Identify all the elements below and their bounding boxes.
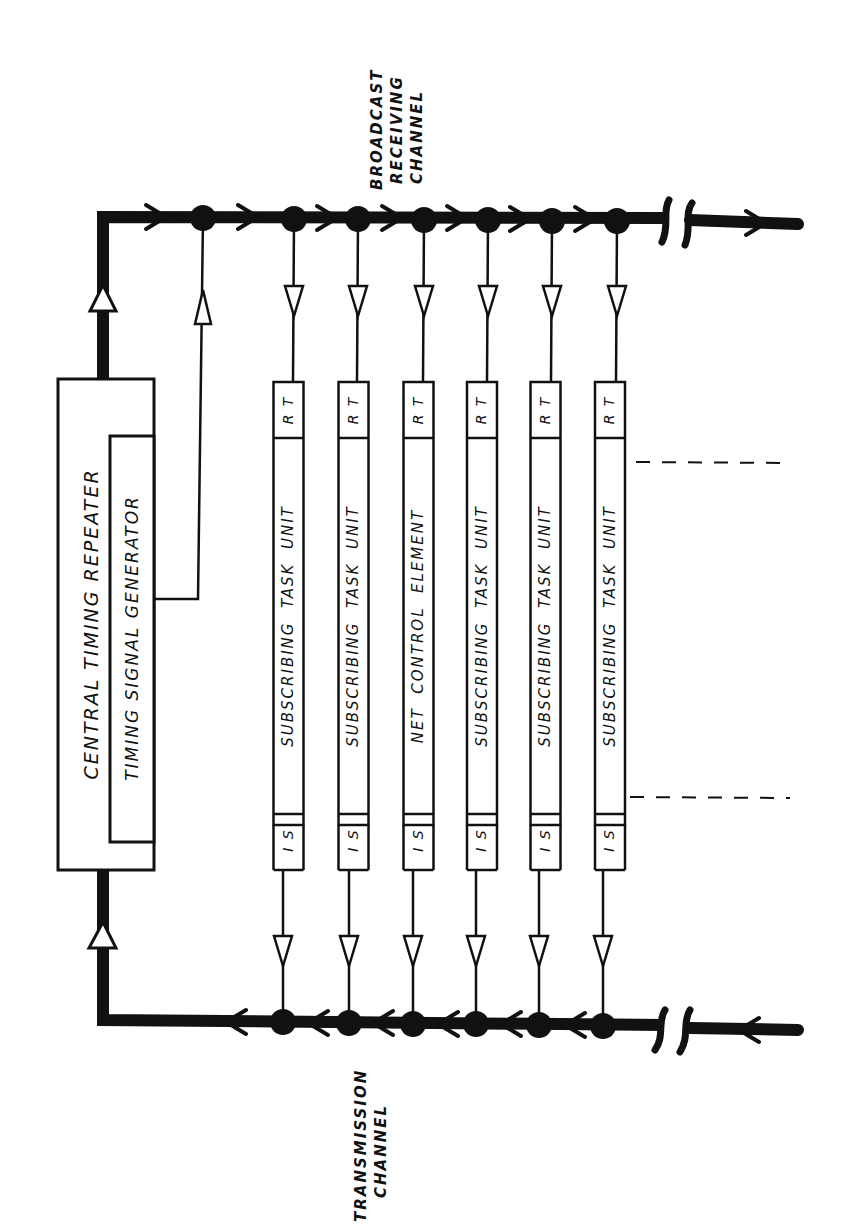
central-timing-repeater: CENTRAL TIMING REPEATER TIMING SIGNAL GE…: [58, 218, 211, 870]
broadcast-channel-label: BROADCAST RECEIVING CHANNEL: [368, 69, 426, 190]
unit-2: R TSUBSCRIBING TASK UNITI S: [339, 219, 369, 1023]
unit-label: NET CONTROL ELEMENT: [409, 509, 427, 743]
unit-6: R TSUBSCRIBING TASK UNITI S: [594, 221, 626, 1026]
unit-label: SUBSCRIBING TASK UNIT: [601, 505, 619, 746]
is-tag: I S: [345, 828, 361, 851]
rt-tag: R T: [473, 396, 489, 425]
arrow-up-icon: [89, 922, 116, 948]
arrow-down-icon: [479, 286, 497, 316]
unit-label: SUBSCRIBING TASK UNIT: [536, 505, 554, 746]
arrow-down-icon: [415, 286, 433, 316]
continuation-dashes: [630, 797, 790, 798]
arrow-down-icon: [274, 936, 292, 966]
break-mark-icon: [685, 203, 692, 245]
svg-text:BROADCAST: BROADCAST: [368, 69, 386, 190]
is-tag: I S: [280, 828, 296, 851]
svg-text:TRANSMISSION: TRANSMISSION: [352, 1069, 370, 1222]
unit-list: R TSUBSCRIBING TASK UNITI SR TSUBSCRIBIN…: [274, 219, 627, 1026]
rt-tag: R T: [280, 396, 296, 425]
continuation-dashes: [636, 462, 790, 463]
unit-label: SUBSCRIBING TASK UNIT: [279, 505, 297, 746]
rt-tag: R T: [601, 396, 617, 425]
rt-tag: R T: [410, 396, 426, 425]
is-tag: I S: [410, 828, 426, 851]
unit-1: R TSUBSCRIBING TASK UNITI S: [274, 219, 304, 1022]
arrow-down-icon: [404, 936, 422, 966]
svg-text:CHANNEL: CHANNEL: [372, 1104, 390, 1198]
unit-label: SUBSCRIBING TASK UNIT: [473, 505, 491, 746]
timing-signal-generator-label: TIMING SIGNAL GENERATOR: [122, 495, 142, 781]
is-tag: I S: [473, 828, 489, 851]
unit-3: R TNET CONTROL ELEMENTI S: [404, 220, 434, 1024]
arrow-down-icon: [530, 936, 548, 966]
broadcast-channel-bus: [90, 200, 798, 870]
rt-tag: R T: [345, 396, 361, 425]
unit-4: R TSUBSCRIBING TASK UNITI S: [467, 220, 497, 1024]
rt-tag: R T: [537, 396, 553, 425]
unit-5: R TSUBSCRIBING TASK UNITI S: [530, 221, 561, 1025]
is-tag: I S: [601, 828, 617, 851]
network-diagram: CENTRAL TIMING REPEATER TIMING SIGNAL GE…: [0, 0, 842, 1224]
central-repeater-title: CENTRAL TIMING REPEATER: [80, 468, 102, 779]
arrow-up-icon: [90, 285, 116, 311]
svg-text:RECEIVING: RECEIVING: [388, 75, 406, 184]
break-mark-icon: [680, 1010, 690, 1052]
arrow-down-icon: [285, 286, 303, 316]
arrow-down-icon: [340, 936, 358, 966]
arrow-down-icon: [467, 936, 485, 966]
arrow-down-icon: [543, 286, 561, 316]
arrow-down-icon: [594, 936, 612, 966]
transmission-channel-label: TRANSMISSION CHANNEL: [352, 1069, 390, 1222]
break-mark-icon: [662, 200, 669, 242]
transmission-channel-bus: [89, 870, 798, 1052]
arrow-up-icon: [195, 290, 211, 324]
arrow-down-icon: [349, 286, 367, 316]
svg-text:CHANNEL: CHANNEL: [408, 90, 426, 184]
arrow-down-icon: [608, 286, 626, 316]
is-tag: I S: [537, 828, 553, 851]
unit-label: SUBSCRIBING TASK UNIT: [344, 505, 362, 746]
